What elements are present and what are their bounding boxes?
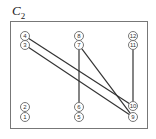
edge-7-9 [82, 49, 131, 114]
node-3: 3 [21, 41, 30, 50]
node-12: 12 [129, 32, 138, 41]
node-5: 5 [75, 113, 84, 122]
node-label: 10 [130, 103, 137, 109]
node-4: 4 [21, 32, 30, 41]
node-9: 9 [129, 113, 138, 122]
node-10: 10 [129, 102, 138, 111]
node-1: 1 [21, 113, 30, 122]
node-label: 12 [130, 33, 137, 39]
node-2: 2 [21, 103, 30, 112]
node-label: 11 [130, 42, 137, 48]
node-8: 8 [75, 32, 84, 41]
graph-canvas: 123456789101112 [0, 0, 156, 139]
node-6: 6 [75, 103, 84, 112]
node-7: 7 [75, 41, 84, 50]
node-11: 11 [129, 41, 138, 50]
